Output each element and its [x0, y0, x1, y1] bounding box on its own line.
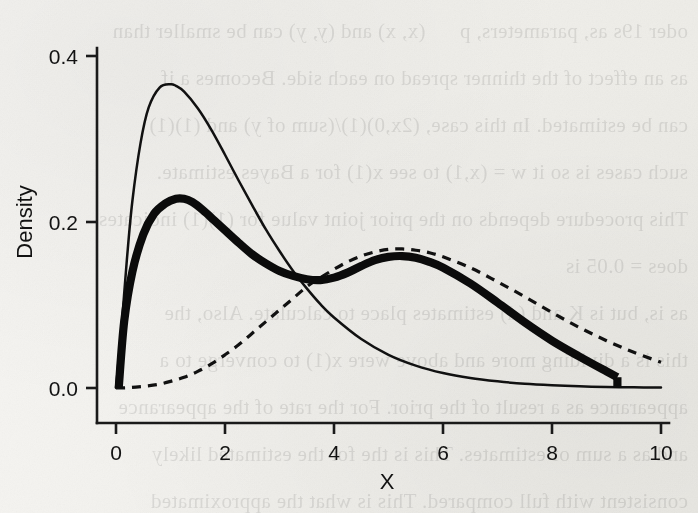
figure-page: oder 19s as, parameters, p (x, x) and (y… [0, 0, 698, 513]
curve-mixture [119, 198, 618, 388]
y-tick-label-0.4: 0.4 [49, 45, 79, 68]
density-plot: 0.4 0.2 0.0 Density 0 2 4 6 8 10 X [0, 0, 698, 513]
x-axis: 0 2 4 6 8 10 X [97, 423, 673, 494]
x-tick-label-0: 0 [110, 441, 122, 464]
curve-component-1 [116, 84, 661, 388]
y-axis: 0.4 0.2 0.0 Density [12, 45, 97, 423]
curve-component-2 [116, 249, 661, 388]
x-tick-label-10: 10 [649, 441, 672, 464]
y-tick-label-0.0: 0.0 [49, 377, 78, 400]
y-axis-title: Density [12, 185, 37, 258]
curves [116, 84, 661, 388]
x-tick-label-2: 2 [219, 441, 231, 464]
x-tick-label-4: 4 [328, 441, 340, 464]
y-tick-label-0.2: 0.2 [49, 211, 78, 234]
x-tick-label-8: 8 [546, 441, 558, 464]
x-tick-label-6: 6 [437, 441, 449, 464]
x-axis-title: X [380, 469, 395, 494]
